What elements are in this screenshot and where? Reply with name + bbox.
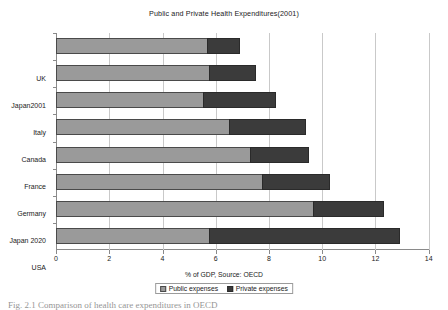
- y-label-japan2001: Japan2001: [11, 102, 46, 109]
- x-label-6: 6: [204, 255, 228, 262]
- y-axis-labels: UK Japan2001 Italy Canada France Germany…: [0, 33, 52, 250]
- x-label-12: 12: [363, 255, 387, 262]
- x-label-2: 2: [97, 255, 121, 262]
- figure-caption: Fig. 2.1 Comparison of health care expen…: [8, 300, 217, 310]
- x-label-10: 10: [310, 255, 334, 262]
- x-tick-8: [269, 250, 270, 254]
- bar-segment-public-uk: [56, 38, 207, 54]
- stacked-bar-germany: [56, 174, 330, 190]
- bar-row-germany: [56, 169, 429, 196]
- x-tick-0: [56, 250, 57, 254]
- chart-legend: Public expenses Private expenses: [155, 283, 293, 294]
- bar-segment-public-japan2020: [56, 201, 313, 217]
- bar-row-usa: [56, 223, 429, 250]
- legend-label-public: Public expenses: [169, 285, 219, 292]
- y-label-uk: UK: [36, 75, 46, 82]
- legend-item-private: Private expenses: [227, 285, 288, 292]
- bar-segment-public-usa: [56, 228, 209, 244]
- bar-segment-public-canada: [56, 119, 229, 135]
- bar-row-italy: [56, 87, 429, 114]
- plot-area: [56, 33, 429, 250]
- y-label-germany: Germany: [17, 210, 46, 217]
- bar-segment-private-france: [250, 147, 309, 163]
- y-label-canada: Canada: [21, 156, 46, 163]
- private-swatch-icon: [227, 286, 233, 292]
- x-tick-10: [322, 250, 323, 254]
- bar-segment-private-canada: [229, 119, 306, 135]
- bar-row-japan2001: [56, 60, 429, 87]
- bar-segment-public-germany: [56, 174, 262, 190]
- bar-segment-private-uk: [207, 38, 240, 54]
- bars-container: [56, 33, 429, 250]
- y-label-japan2020: Japan 2020: [9, 237, 46, 244]
- legend-label-private: Private expenses: [236, 285, 288, 292]
- legend-item-public: Public expenses: [160, 285, 218, 292]
- public-swatch-icon: [160, 286, 166, 292]
- x-label-0: 0: [44, 255, 68, 262]
- x-tick-6: [216, 250, 217, 254]
- stacked-bar-canada: [56, 119, 306, 135]
- x-tick-12: [375, 250, 376, 254]
- x-axis-labels: 0 2 4 6 8 10 12 14: [0, 255, 448, 267]
- x-tick-4: [163, 250, 164, 254]
- bar-row-japan2020: [56, 196, 429, 223]
- chart-title: Public and Private Health Expenditures(2…: [0, 9, 448, 18]
- bar-row-uk: [56, 33, 429, 60]
- x-tick-14: [429, 250, 430, 254]
- stacked-bar-japan2020: [56, 201, 384, 217]
- x-label-14: 14: [417, 255, 441, 262]
- stacked-bar-japan2001: [56, 65, 256, 81]
- bar-segment-public-france: [56, 147, 250, 163]
- bar-row-france: [56, 142, 429, 169]
- stacked-bar-uk: [56, 38, 240, 54]
- stacked-bar-usa: [56, 228, 400, 244]
- stacked-bar-italy: [56, 92, 276, 108]
- bar-segment-public-italy: [56, 92, 203, 108]
- x-axis-title: % of GDP, Source: OECD: [0, 271, 448, 278]
- y-label-italy: Italy: [33, 129, 46, 136]
- bar-segment-private-italy: [203, 92, 276, 108]
- bar-row-canada: [56, 114, 429, 141]
- bar-segment-private-japan2001: [209, 65, 256, 81]
- bar-segment-private-japan2020: [313, 201, 384, 217]
- bar-segment-private-germany: [262, 174, 330, 190]
- x-tick-2: [109, 250, 110, 254]
- bar-segment-public-japan2001: [56, 65, 209, 81]
- y-label-france: France: [24, 183, 46, 190]
- x-label-4: 4: [151, 255, 175, 262]
- bar-segment-private-usa: [209, 228, 399, 244]
- stacked-bar-france: [56, 147, 309, 163]
- x-label-8: 8: [257, 255, 281, 262]
